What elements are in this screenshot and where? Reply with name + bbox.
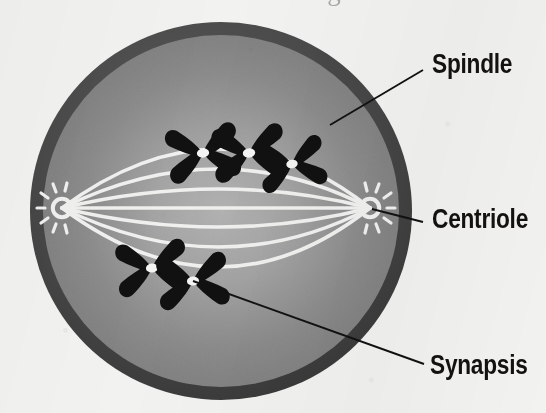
label-spindle: Spindle <box>432 51 512 78</box>
label-centriole: Centriole <box>432 206 528 233</box>
cell-diagram-figure: Parts of a cell during meiosis <box>0 0 546 413</box>
label-synapsis: Synapsis <box>430 352 528 379</box>
